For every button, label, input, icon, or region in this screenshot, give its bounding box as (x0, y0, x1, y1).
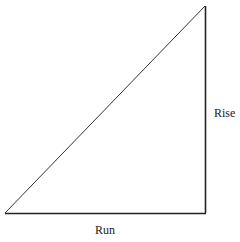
right-triangle-diagram (0, 0, 240, 242)
hypotenuse-line (5, 6, 205, 213)
run-label: Run (95, 224, 115, 236)
rise-label: Rise (214, 107, 235, 119)
